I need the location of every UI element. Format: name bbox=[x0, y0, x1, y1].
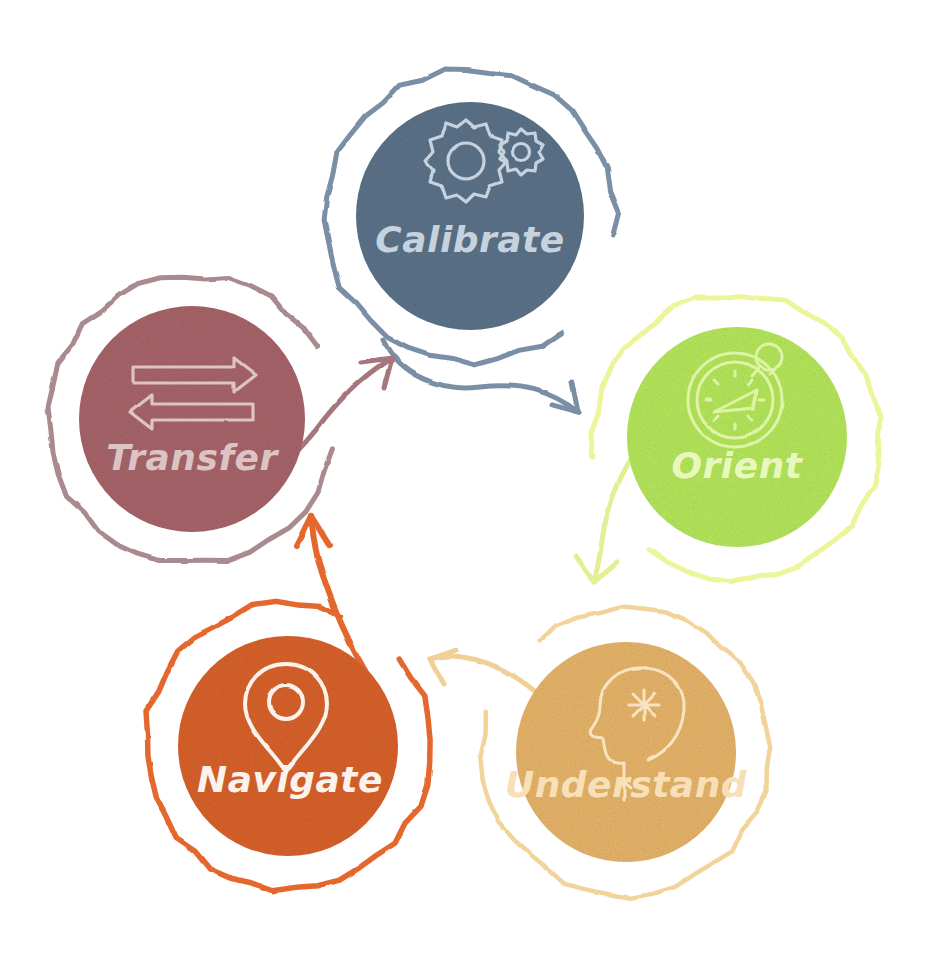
node-disc-navigate bbox=[178, 636, 398, 856]
node-label-calibrate: Calibrate bbox=[375, 219, 564, 260]
node-navigate[interactable]: Navigate bbox=[146, 601, 430, 891]
diagram-canvas: Calibrate Orient bbox=[0, 0, 928, 961]
node-label-understand: Understand bbox=[505, 764, 748, 805]
node-label-navigate: Navigate bbox=[197, 759, 383, 800]
node-orient[interactable]: Orient bbox=[591, 295, 880, 581]
node-disc-understand bbox=[516, 642, 736, 862]
node-disc-calibrate bbox=[356, 102, 584, 330]
arrow-understand-to-navigate bbox=[430, 650, 548, 703]
node-transfer[interactable]: Transfer bbox=[48, 277, 332, 560]
node-label-orient: Orient bbox=[672, 445, 804, 486]
node-understand[interactable]: Understand bbox=[480, 606, 770, 897]
cycle-diagram: Calibrate Orient bbox=[0, 0, 928, 961]
arrow-orient-to-understand bbox=[576, 448, 638, 582]
node-calibrate[interactable]: Calibrate bbox=[324, 70, 619, 365]
node-label-transfer: Transfer bbox=[106, 437, 279, 478]
